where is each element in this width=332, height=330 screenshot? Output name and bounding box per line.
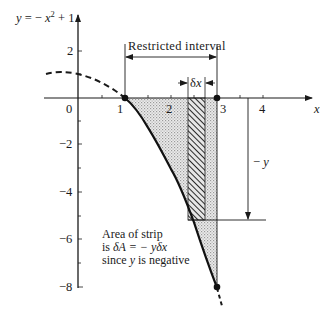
y-tick-label-2: 2 xyxy=(67,44,73,58)
point-x1 xyxy=(122,95,129,102)
point-x3-curve xyxy=(214,284,221,291)
curve-dashed-left xyxy=(46,72,125,98)
y-tick-label-neg4: −4 xyxy=(59,185,73,199)
hatched-strip xyxy=(188,98,205,220)
annotation-line-2: is δA = − yδx xyxy=(102,240,168,254)
y-tick-label-neg6: −6 xyxy=(59,232,72,246)
y-tick-label-neg2: −2 xyxy=(59,137,72,151)
annotation-line-1: Area of strip xyxy=(102,227,163,241)
delta-x-label: δx xyxy=(190,76,202,90)
x-tick-label-2: 2 xyxy=(166,102,172,116)
point-x3-axis xyxy=(214,95,221,102)
minus-y-label: − y xyxy=(253,155,269,169)
x-axis-label: x xyxy=(313,102,320,116)
x-tick-label-3: 3 xyxy=(220,102,226,116)
x-tick-label-0: 0 xyxy=(66,102,72,116)
equation-label: y = − x2 + 1 xyxy=(14,9,74,25)
y-ticks xyxy=(78,51,83,287)
restricted-interval-label: Restricted interval xyxy=(128,39,226,53)
y-tick-label-neg8: −8 xyxy=(59,280,72,294)
annotation-line-3: since y is negative xyxy=(102,253,190,267)
x-tick-label-1: 1 xyxy=(117,102,123,116)
integral-diagram: Restricted interval δx y = − x2 + 1 0 1 … xyxy=(0,0,332,330)
x-tick-label-4: 4 xyxy=(259,102,266,116)
curve-dashed-right xyxy=(217,288,222,306)
